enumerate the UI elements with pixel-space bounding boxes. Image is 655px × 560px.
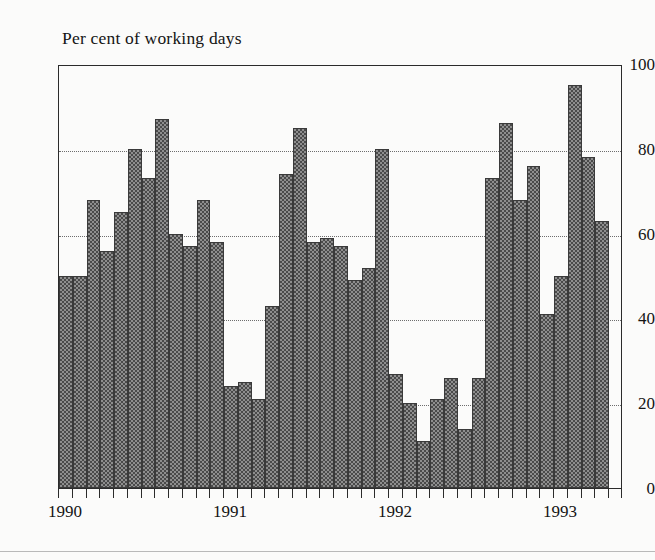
x-axis-tick [347, 489, 348, 498]
x-axis-tick [182, 489, 183, 498]
bar [279, 174, 293, 488]
chart-title: Per cent of working days [62, 28, 242, 49]
bar [362, 268, 376, 488]
bar [183, 246, 197, 488]
x-axis-tick [99, 489, 100, 498]
y-axis-tick-label: 0 [609, 479, 655, 499]
x-axis-tick [498, 489, 499, 498]
bar [417, 441, 431, 488]
x-axis-tick [443, 489, 444, 498]
x-axis-tick [223, 489, 224, 498]
x-axis-tick [319, 489, 320, 498]
y-axis-tick-label: 60 [609, 225, 655, 245]
bar [568, 85, 582, 488]
bar [224, 386, 238, 488]
x-axis-tick [86, 489, 87, 498]
x-axis-tick [471, 489, 472, 498]
x-axis-tick [264, 489, 265, 498]
x-axis-tick [526, 489, 527, 498]
bar [375, 149, 389, 488]
x-axis-ticks [58, 489, 622, 499]
x-axis-tick [512, 489, 513, 498]
bar [527, 166, 541, 488]
y-axis-tick-label: 100 [609, 55, 655, 75]
x-axis-tick [429, 489, 430, 498]
bar [293, 128, 307, 488]
bar [210, 242, 224, 488]
bar [59, 276, 73, 488]
bar [444, 378, 458, 488]
x-axis-tick [581, 489, 582, 498]
x-axis-tick [141, 489, 142, 498]
bar [554, 276, 568, 488]
x-axis-tick [388, 489, 389, 498]
chart-figure: Per cent of working days 020406080100199… [0, 0, 655, 560]
y-axis-tick-label: 80 [609, 140, 655, 160]
bar [595, 221, 609, 488]
bar [320, 238, 334, 488]
x-axis-tick [292, 489, 293, 498]
x-axis-year-label: 1993 [543, 502, 577, 522]
bar [197, 200, 211, 488]
bar [582, 157, 596, 488]
x-axis-tick [553, 489, 554, 498]
bar [155, 119, 169, 488]
bar [485, 178, 499, 488]
bar [499, 123, 513, 488]
bar [142, 178, 156, 488]
y-axis-tick-label: 40 [609, 309, 655, 329]
x-axis-tick [333, 489, 334, 498]
bar [307, 242, 321, 488]
plot-area [58, 65, 622, 489]
y-axis-tick-label: 20 [609, 394, 655, 414]
bar [513, 200, 527, 488]
bar [472, 378, 486, 488]
x-axis-tick [168, 489, 169, 498]
x-axis-tick [196, 489, 197, 498]
x-axis-tick [457, 489, 458, 498]
bar [458, 429, 472, 488]
x-axis-tick [539, 489, 540, 498]
x-axis-tick [154, 489, 155, 498]
x-axis-tick [306, 489, 307, 498]
bar [403, 403, 417, 488]
x-axis-tick [127, 489, 128, 498]
bar [430, 399, 444, 488]
bar [265, 306, 279, 488]
x-axis-tick [237, 489, 238, 498]
x-axis-year-label: 1991 [213, 502, 247, 522]
x-axis-tick [416, 489, 417, 498]
bar [128, 149, 142, 488]
x-axis-tick [113, 489, 114, 498]
x-axis-year-label: 1992 [378, 502, 412, 522]
x-axis-tick [594, 489, 595, 498]
x-axis-tick [251, 489, 252, 498]
bar [100, 251, 114, 488]
bottom-divider [0, 551, 655, 552]
x-axis-tick [361, 489, 362, 498]
x-axis-year-label: 1990 [48, 502, 82, 522]
x-axis-tick [402, 489, 403, 498]
bar [169, 234, 183, 488]
x-axis-tick [278, 489, 279, 498]
bar [540, 314, 554, 488]
bar [389, 374, 403, 488]
bar [334, 246, 348, 488]
bar [238, 382, 252, 488]
bar [73, 276, 87, 488]
x-axis-tick [72, 489, 73, 498]
y-axis [0, 65, 52, 489]
x-axis-tick [58, 489, 59, 498]
x-axis-tick [209, 489, 210, 498]
bar [114, 212, 128, 488]
bar [87, 200, 101, 488]
bar-series [59, 66, 621, 488]
x-axis-tick [484, 489, 485, 498]
bar [348, 280, 362, 488]
x-axis-tick [567, 489, 568, 498]
bar [252, 399, 266, 488]
x-axis-tick [374, 489, 375, 498]
